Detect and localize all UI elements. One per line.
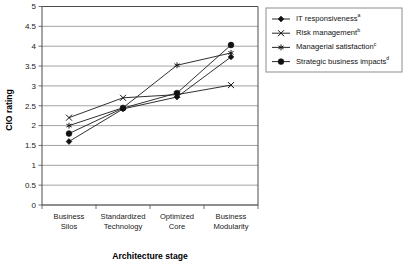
- legend-superscript: a: [357, 13, 360, 19]
- y-tick-label: 2: [32, 121, 37, 130]
- y-axis-title: CIO rating: [4, 89, 14, 131]
- x-tick-label: Optimized: [160, 212, 194, 221]
- y-tick-label: 4.5: [25, 22, 37, 31]
- x-tick-label: Silos: [61, 222, 78, 231]
- marker-circle: [278, 59, 284, 65]
- marker-circle: [66, 131, 72, 137]
- y-tick-label: 4: [32, 42, 37, 51]
- y-tick-label: 1.5: [25, 141, 37, 150]
- y-tick-label: 5: [32, 2, 37, 11]
- marker-circle: [228, 42, 234, 48]
- marker-circle: [120, 105, 126, 111]
- y-tick-label: 1: [32, 161, 37, 170]
- x-tick-label: Business: [54, 212, 85, 221]
- y-tick-label: 0: [32, 201, 37, 210]
- x-tick-label: Business: [216, 212, 247, 221]
- legend-label: IT responsivenessa: [296, 13, 360, 23]
- x-tick-label: Core: [169, 222, 185, 231]
- legend-superscript: c: [374, 41, 377, 47]
- marker-circle: [174, 90, 180, 96]
- y-tick-label: 3.5: [25, 62, 37, 71]
- legend-label: Managerial satisfactionc: [296, 41, 377, 51]
- legend-label: Strategic business impactsd: [296, 55, 389, 65]
- chart-legend: IT responsivenessaRisk managementbManage…: [266, 8, 402, 72]
- legend-superscript: b: [357, 27, 360, 33]
- y-tick-label: 2.5: [25, 102, 37, 111]
- x-tick-label: Technology: [104, 222, 143, 231]
- cio-rating-line-chart: 00.511.522.533.544.55 BusinessSilosStand…: [0, 0, 411, 266]
- legend-label: Risk managementb: [296, 27, 360, 37]
- chart-container: 00.511.522.533.544.55 BusinessSilosStand…: [0, 0, 411, 266]
- y-tick-label: 3: [32, 82, 37, 91]
- legend-superscript: d: [386, 55, 389, 61]
- x-axis-title: Architecture stage: [112, 251, 188, 261]
- x-tick-label: Standardized: [101, 212, 146, 221]
- y-tick-label: 0.5: [25, 181, 37, 190]
- x-tick-label: Modularity: [213, 222, 248, 231]
